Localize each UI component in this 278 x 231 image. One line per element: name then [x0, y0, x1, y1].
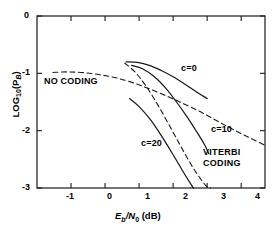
x-axis-title: Eb/N0 (dB) [115, 210, 161, 223]
annotation-no-coding: NO CODING [44, 76, 98, 86]
annotation-viterbi: VITERBI [203, 147, 241, 157]
curve-unlabeled-steep-dashed [125, 63, 211, 188]
ytick-label-3: -3 [22, 182, 30, 192]
ytick-label-1: -1 [22, 67, 30, 77]
xtick-label-neg1: -1 [66, 191, 74, 201]
ytick-label-2: -2 [22, 125, 30, 135]
annotation-c0: c=0 [181, 63, 197, 73]
y-axis-title-sub-10: 10 [15, 89, 22, 97]
xtick-label-0: 0 [107, 191, 112, 201]
figure-root: 0 -1 -2 -3 -1 0 1 2 3 4 NO CODING c=0 c=… [0, 0, 278, 231]
xtick-label-3: 3 [221, 191, 226, 201]
x-axis-title-n: /N [126, 210, 136, 221]
ytick-label-0: 0 [24, 10, 29, 20]
y-axis-title-log: LOG [10, 97, 21, 118]
y-axis-title-open: (P [10, 80, 21, 90]
xtick-label-4: 4 [255, 191, 260, 201]
xtick-label-1: 1 [145, 191, 150, 201]
y-axis-title-close: ) [10, 71, 21, 74]
x-axis-title-unit: (dB) [139, 210, 161, 221]
y-axis-title-sub-b: B [15, 75, 22, 80]
xtick-label-2: 2 [183, 191, 188, 201]
y-axis-title: LOG10(PB) [10, 54, 23, 134]
chart-canvas [0, 0, 278, 231]
annotation-coding: CODING [203, 158, 241, 168]
annotation-c10: c=10 [211, 124, 232, 134]
annotation-c20: c=20 [141, 138, 162, 148]
